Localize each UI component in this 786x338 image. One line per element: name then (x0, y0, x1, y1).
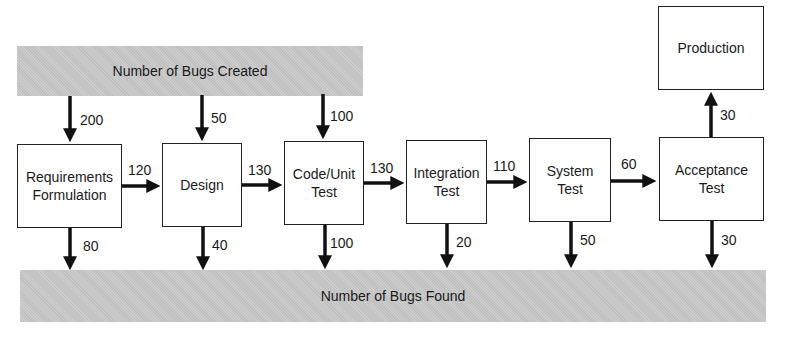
found-count-system: 50 (580, 232, 596, 248)
stage-label-line2: Formulation (26, 186, 113, 204)
stage-requirements-formulation: Requirements Formulation (17, 144, 122, 228)
found-count-integration: 20 (456, 234, 472, 250)
stage-label-line1: Code/Unit (293, 165, 355, 183)
passed-count-code: 130 (370, 160, 393, 176)
stage-system-test: System Test (529, 138, 611, 222)
stage-design: Design (162, 143, 242, 227)
passed-count-acceptance: 30 (720, 107, 736, 123)
stage-label-line2: Test (293, 183, 355, 201)
stage-label-line1: Acceptance (675, 161, 748, 179)
passed-count-design: 130 (248, 162, 271, 178)
stage-label-line1: Requirements (26, 168, 113, 186)
stage-label-line1: Design (180, 176, 224, 194)
found-count-requirements: 80 (83, 238, 99, 254)
production-box: Production (658, 6, 764, 90)
stage-label-line1: System (547, 162, 594, 180)
stage-label-line2: Test (675, 179, 748, 197)
passed-count-integration: 110 (493, 158, 515, 174)
stage-label-line2: Test (413, 182, 479, 200)
created-count-design: 50 (211, 110, 227, 126)
stage-acceptance-test: Acceptance Test (659, 137, 764, 221)
passed-count-system: 60 (621, 156, 637, 172)
created-count-requirements: 200 (80, 112, 103, 128)
passed-count-requirements: 120 (128, 162, 151, 178)
found-count-acceptance: 30 (721, 232, 737, 248)
stage-code-unit-test: Code/Unit Test (284, 141, 364, 225)
stage-integration-test: Integration Test (406, 140, 487, 224)
found-count-design: 40 (212, 237, 228, 253)
stage-label-line2: Test (547, 180, 594, 198)
created-count-code: 100 (330, 108, 353, 124)
found-count-code: 100 (330, 235, 353, 251)
production-label: Production (678, 39, 745, 57)
stage-label-line1: Integration (413, 164, 479, 182)
